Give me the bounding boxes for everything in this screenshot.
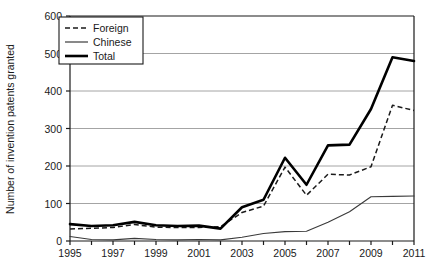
x-tick-label-2009: 2009 [359, 247, 383, 259]
legend-label-total: Total [93, 50, 115, 62]
x-tick-label-1997: 1997 [101, 247, 125, 259]
y-tick-label-400: 400 [44, 85, 62, 97]
x-tick-label-1999: 1999 [144, 247, 168, 259]
x-tick-label-2003: 2003 [230, 247, 254, 259]
x-tick-label-2007: 2007 [316, 247, 340, 259]
x-tick-label-2005: 2005 [273, 247, 297, 259]
legend-label-chinese: Chinese [93, 36, 132, 48]
chart-legend: Foreign Chinese Total [59, 17, 143, 64]
y-tick-label-100: 100 [44, 198, 62, 210]
y-tick-label-300: 300 [44, 123, 62, 135]
x-tick-label-2011: 2011 [403, 247, 426, 259]
patents-line-chart: 0100200300400500600 19951997199920012003… [0, 0, 438, 279]
y-tick-label-0: 0 [56, 235, 62, 247]
x-tick-label-1995: 1995 [58, 247, 82, 259]
x-tick-label-2001: 2001 [187, 247, 211, 259]
y-tick-label-200: 200 [44, 160, 62, 172]
y-axis-title: Number of invention patents granted [4, 44, 16, 214]
chart-canvas: 0100200300400500600 19951997199920012003… [0, 0, 438, 279]
legend-label-foreign: Foreign [93, 22, 129, 34]
